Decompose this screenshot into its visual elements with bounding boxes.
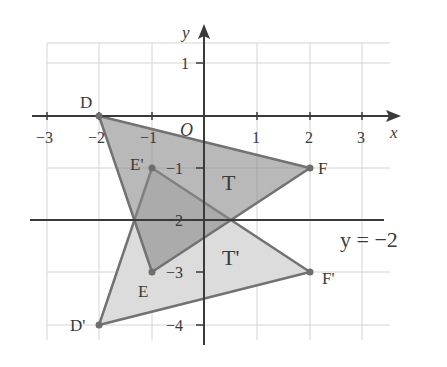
x-tick-label: 1 (252, 129, 260, 146)
x-axis-label: x (389, 123, 398, 142)
mirror-line-equation: y = −2 (340, 227, 398, 252)
y-tick-label: 1 (181, 55, 189, 72)
x-tick-label: 2 (305, 129, 313, 146)
vertex-label-e: E (138, 282, 148, 301)
origin-label: O (180, 120, 193, 140)
vertex-label-d: D (80, 93, 92, 112)
y-tick-label: −1 (166, 160, 183, 177)
y-tick-label: −2 (166, 212, 183, 229)
y-axis-label: y (180, 23, 190, 42)
reflection-diagram: −3 −2 −1 1 2 3 1 −1 −2 −3 −4 y x O D E F… (0, 0, 447, 367)
x-tick-label: 3 (357, 129, 365, 146)
vertex-label-e-prime: E' (130, 155, 143, 174)
vertex-label-f: F (318, 159, 327, 178)
triangle-label-t: T (222, 170, 236, 195)
triangle-label-t-prime: T' (222, 245, 239, 270)
x-tick-label: −3 (36, 129, 53, 146)
y-tick-label: −3 (166, 264, 183, 281)
y-tick-label: −4 (166, 317, 183, 334)
vertex-label-f-prime: F' (322, 269, 335, 288)
x-tick-label: −1 (140, 129, 157, 146)
x-tick-label: −2 (88, 129, 105, 146)
vertex-label-d-prime: D' (70, 316, 85, 335)
